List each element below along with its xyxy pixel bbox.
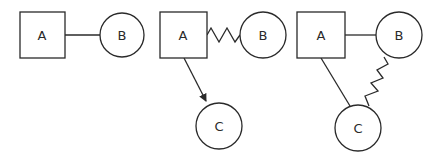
node-c-label: C [353, 121, 362, 136]
edge-b-c-zigzag [365, 57, 388, 106]
node-a-label: A [179, 28, 188, 43]
node-c-label: C [214, 119, 223, 134]
node-a-label: A [38, 28, 47, 43]
diagram-3: A B C [297, 12, 422, 151]
node-a-label: A [317, 28, 326, 43]
node-b-label: B [395, 28, 404, 43]
node-b-label: B [118, 28, 127, 43]
diagram-2: A B C [160, 12, 286, 149]
node-b-label: B [259, 28, 268, 43]
relationship-diagrams: A B A B C A B C [0, 0, 438, 158]
diagram-1: A B [20, 12, 144, 58]
edge-a-c-line [321, 58, 350, 106]
edge-a-c-arrow [184, 58, 206, 101]
edge-a-b-zigzag [207, 28, 240, 42]
